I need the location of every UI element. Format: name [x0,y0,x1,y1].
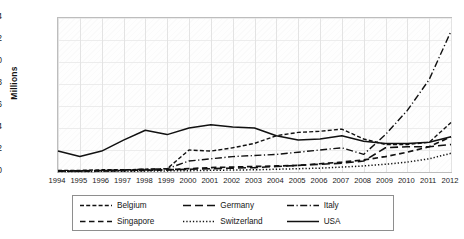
legend-label: Switzerland [220,217,262,226]
legend-item-germany[interactable]: Germany [182,201,285,210]
line-chart: Millions 02468101214 1994199519961997199… [0,0,464,239]
vgridline [451,18,452,172]
y-tick-4: 4 [0,121,2,131]
legend-key-italy [286,201,320,210]
legend-item-switzerland[interactable]: Switzerland [182,217,285,226]
series-lines [58,18,451,172]
x-tick-2012: 2012 [437,176,463,185]
legend-label: Germany [220,201,254,210]
legend-key-belgium [79,201,113,210]
series-line-usa [58,125,451,157]
y-tick-10: 10 [0,55,2,65]
y-tick-12: 12 [0,33,2,43]
legend-label: USA [324,217,341,226]
series-line-singapore [58,137,451,171]
y-tick-6: 6 [0,99,2,109]
series-line-italy [58,31,451,171]
chart-legend: BelgiumGermanyItalySingaporeSwitzerlandU… [72,195,394,231]
y-tick-8: 8 [0,77,2,87]
y-tick-0: 0 [0,165,2,175]
plot-area [57,17,452,173]
legend-key-singapore [79,217,113,226]
y-axis-title: Millions [9,48,19,118]
legend-label: Singapore [117,217,154,226]
legend-item-italy[interactable]: Italy [286,201,389,210]
legend-key-germany [182,201,216,210]
legend-item-usa[interactable]: USA [286,217,389,226]
legend-key-switzerland [182,217,216,226]
legend-item-belgium[interactable]: Belgium [79,201,182,210]
legend-key-usa [286,217,320,226]
series-line-germany [58,145,451,171]
legend-label: Belgium [117,201,147,210]
legend-label: Italy [324,201,339,210]
y-tick-14: 14 [0,11,2,21]
legend-item-singapore[interactable]: Singapore [79,217,182,226]
y-tick-2: 2 [0,143,2,153]
